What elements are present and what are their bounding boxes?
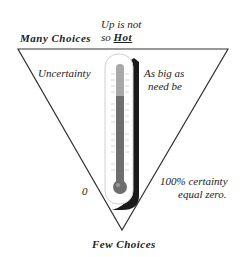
uncertainty-label: Uncertainty (38, 67, 91, 79)
top-note-prefix: so (101, 31, 111, 43)
mercury-lower (116, 96, 124, 184)
top-note-line1: Up is not (101, 18, 141, 30)
bulb-highlight (116, 183, 120, 187)
need-be-label: need be (148, 80, 182, 92)
zero-label: 0 (82, 185, 88, 197)
mercury-upper (116, 64, 124, 98)
many-choices-label: Many Choices (20, 32, 91, 44)
top-note-emphasis: Hot (114, 31, 133, 43)
certainty-label-line1: 100% certainty (160, 175, 228, 187)
few-choices-label: Few Choices (92, 238, 156, 250)
certainty-diagram: Up is not so Hot Many Choices Uncertaint… (0, 0, 246, 257)
top-note-line2: so Hot (101, 31, 132, 43)
as-big-as-label: As big as (144, 67, 184, 79)
thermometer-bulb (113, 180, 127, 194)
certainty-label-line2: equal zero. (178, 188, 226, 200)
